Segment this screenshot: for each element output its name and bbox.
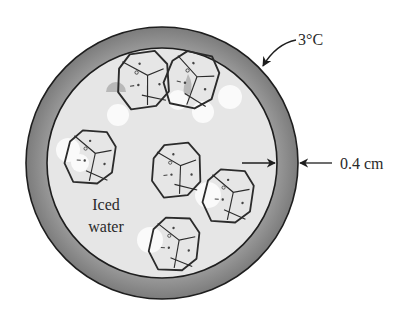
- contents-label-line1: Iced: [92, 196, 120, 213]
- spherical-container-diagram: Iced water 3°C 0.4 cm: [0, 0, 418, 322]
- temperature-arrow-icon: [263, 40, 296, 66]
- wall-thickness-label: 0.4 cm: [340, 155, 384, 172]
- contents-label-line2: water: [88, 218, 124, 235]
- surface-temperature-label: 3°C: [298, 31, 323, 48]
